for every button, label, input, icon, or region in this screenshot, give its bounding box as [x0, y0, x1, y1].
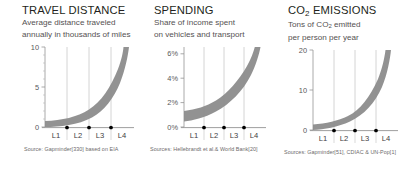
x-tick-label-l3: L3 [361, 134, 369, 143]
x-tick-label-l4: L4 [382, 134, 390, 143]
chart-spending: 6% 4% 2% 0% L1 L2 L3 L4 [154, 43, 266, 143]
data-band [313, 50, 391, 130]
x-tick-label-l2: L2 [340, 134, 348, 143]
panel-title: SPENDING [154, 4, 276, 16]
chart-travel-distance: 10 5 0 L1 L2 L3 L4 [22, 43, 134, 143]
x-tick-label-l3: L3 [96, 131, 104, 140]
source-citation: Sources: Gapminder[51], CDIAC & UN-Pop[1… [284, 149, 409, 156]
chart-svg: 6% 4% 2% 0% L1 L2 L3 L4 [154, 43, 266, 143]
panel-subtitle-line1: Share of income spent [154, 18, 276, 27]
panel-subtitle-line2: per person per year [288, 33, 409, 42]
axis-dot [332, 128, 336, 132]
axis-dot [87, 125, 91, 129]
axis-dot [222, 125, 226, 129]
source-citation: Source: Gapminder[330] based on EIA [24, 146, 140, 153]
x-tick-label-l2: L2 [210, 131, 218, 140]
axis-dot [65, 125, 69, 129]
panel-subtitle-line2: annually in thousands of miles [22, 30, 140, 39]
chart-svg: 10 5 0 L1 L2 L3 L4 [22, 43, 134, 143]
panel-co2-emissions: CO2 EMISSIONS Tons of CO2 emitted per pe… [276, 4, 409, 179]
y-axis [310, 50, 314, 130]
panel-title-subscript: 2 [305, 9, 310, 18]
y-tick-label: 6% [167, 49, 178, 58]
panel-travel-distance: TRAVEL DISTANCE Average distance travele… [0, 4, 140, 179]
axis-dot [202, 125, 206, 129]
y-tick-label: 10 [299, 85, 307, 94]
axis-dot [242, 125, 246, 129]
x-tick-label-l1: L1 [319, 134, 327, 143]
panel-subtitle-subscript: 2 [328, 23, 331, 29]
chart-co2-emissions: 20 10 0 L1 L2 L3 L4 [288, 46, 398, 146]
x-axis [181, 125, 266, 129]
panel-spending: SPENDING Share of income spent on vehicl… [140, 4, 276, 179]
x-tick-label-l3: L3 [230, 131, 238, 140]
panel-subtitle-prefix: Tons of CO [288, 20, 328, 29]
data-band [184, 47, 261, 122]
y-axis [181, 47, 185, 127]
x-tick-label-l1: L1 [52, 131, 60, 140]
x-tick-label-l1: L1 [190, 131, 198, 140]
axis-dot [109, 125, 113, 129]
chart-svg: 20 10 0 L1 L2 L3 L4 [288, 46, 398, 146]
y-tick-label: 4% [167, 73, 178, 82]
panel-subtitle-suffix: emitted [332, 20, 361, 29]
x-tick-label-l4: L4 [250, 131, 258, 140]
y-tick-label: 0% [167, 122, 178, 131]
source-citation: Sources: Hellebrandt et al.& World Bank[… [150, 146, 276, 153]
panel-subtitle-line1: Tons of CO2 emitted [288, 20, 409, 30]
panel-title: CO2 EMISSIONS [288, 4, 409, 18]
x-axis [310, 128, 398, 132]
y-tick-label: 0 [35, 122, 39, 131]
y-tick-label: 5 [35, 82, 39, 91]
panel-title: TRAVEL DISTANCE [22, 4, 140, 16]
panel-subtitle-line2: on vehicles and transport [154, 30, 276, 39]
y-axis [42, 47, 46, 127]
x-tick-label-l2: L2 [74, 131, 82, 140]
panel-subtitle-line1: Average distance traveled [22, 18, 140, 27]
axis-dot [353, 128, 357, 132]
axis-dot [374, 128, 378, 132]
small-multiples-figure: TRAVEL DISTANCE Average distance travele… [0, 0, 409, 179]
panel-title-prefix: CO [288, 4, 305, 16]
y-tick-label: 2% [167, 98, 178, 107]
panel-title-suffix: EMISSIONS [310, 4, 377, 16]
data-band [45, 47, 129, 127]
y-tick-label: 0 [303, 125, 307, 134]
y-tick-label: 20 [299, 46, 307, 55]
x-tick-label-l4: L4 [118, 131, 126, 140]
y-tick-label: 10 [31, 43, 39, 52]
